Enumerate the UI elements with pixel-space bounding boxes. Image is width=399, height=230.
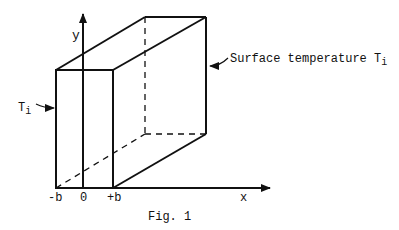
slab-diagram: y x -b 0 +b Ti Surface temperature Ti Fi… bbox=[0, 0, 399, 230]
bottom-right-depth-edge bbox=[113, 134, 206, 188]
top-right-depth-edge bbox=[113, 17, 206, 70]
surface-temperature-label: Surface temperature Ti bbox=[230, 52, 387, 68]
surface-leader-arrow bbox=[210, 58, 228, 66]
top-left-depth-edge bbox=[56, 17, 145, 70]
left-temperature-label: Ti bbox=[18, 101, 31, 117]
tick-minus-b: -b bbox=[48, 191, 62, 205]
y-axis-label: y bbox=[72, 28, 80, 43]
tick-plus-b: +b bbox=[107, 191, 121, 205]
bottom-left-depth-edge bbox=[56, 134, 145, 188]
figure-caption: Fig. 1 bbox=[148, 210, 191, 224]
tick-zero: 0 bbox=[80, 191, 87, 205]
x-axis-label: x bbox=[240, 191, 247, 205]
left-leader-arrow bbox=[36, 104, 54, 108]
